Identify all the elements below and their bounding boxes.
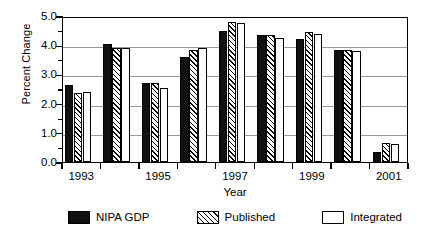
y-tick-label: 0.0	[23, 157, 57, 169]
bar	[74, 93, 82, 162]
bar-group	[296, 18, 322, 162]
bar	[237, 23, 245, 162]
bar-group	[334, 18, 360, 162]
bar	[296, 39, 304, 162]
legend-entry: NIPA GDP	[68, 211, 149, 224]
bar	[275, 38, 283, 162]
y-tick-label: 1.0	[23, 128, 57, 140]
bar	[198, 48, 206, 162]
bar	[121, 48, 129, 162]
x-tick	[292, 163, 293, 169]
bar	[382, 143, 390, 162]
x-tick	[100, 163, 101, 169]
bar-group	[373, 18, 399, 162]
bar	[219, 31, 227, 162]
legend-label: NIPA GDP	[96, 211, 149, 223]
bar-group	[103, 18, 129, 162]
chart-legend: NIPA GDPPublishedIntegrated	[62, 206, 408, 228]
bar	[305, 32, 313, 162]
bar	[391, 144, 399, 162]
bar	[160, 88, 168, 162]
legend-entry: Published	[197, 211, 276, 224]
x-tick	[61, 163, 62, 169]
y-tick-label: 4.0	[23, 40, 57, 52]
bar	[228, 22, 236, 162]
bar	[103, 44, 111, 162]
bar	[83, 92, 91, 162]
y-tick-label: 5.0	[23, 11, 57, 23]
solid-black-swatch	[68, 211, 90, 224]
diagonal-hatch-swatch	[197, 211, 219, 224]
legend-entry: Integrated	[322, 211, 402, 224]
x-tick-label: 2001	[361, 170, 417, 182]
bar	[142, 83, 150, 162]
x-tick	[254, 163, 255, 169]
bar	[65, 85, 73, 162]
bar-group	[219, 18, 245, 162]
bar	[266, 35, 274, 162]
bar	[189, 50, 197, 162]
y-tick-label: 3.0	[23, 69, 57, 81]
x-axis-title: Year	[62, 186, 408, 198]
plot-area	[62, 17, 408, 163]
bar	[257, 35, 265, 162]
legend-label: Published	[225, 211, 276, 223]
bar-group	[180, 18, 206, 162]
x-tick	[138, 163, 139, 169]
bar-group	[142, 18, 168, 162]
x-tick-label: 1995	[130, 170, 186, 182]
x-tick	[177, 163, 178, 169]
bar	[373, 152, 381, 162]
x-tick	[215, 163, 216, 169]
bar	[151, 83, 159, 162]
legend-label: Integrated	[350, 211, 402, 223]
y-tick-label: 2.0	[23, 99, 57, 111]
bar-group	[65, 18, 91, 162]
x-tick-label: 1997	[207, 170, 263, 182]
x-tick	[407, 163, 408, 169]
bar-chart-figure: Percent Change 0.01.02.03.04.05.0 199319…	[0, 0, 423, 236]
bar-group	[257, 18, 283, 162]
bar	[352, 51, 360, 162]
open-white-swatch	[322, 211, 344, 224]
bar	[112, 48, 120, 162]
x-tick-label: 1993	[53, 170, 109, 182]
bar	[343, 50, 351, 162]
x-tick	[330, 163, 331, 169]
x-tick	[369, 163, 370, 169]
bar	[180, 57, 188, 162]
bar	[314, 34, 322, 162]
bar	[334, 50, 342, 162]
x-tick-label: 1999	[284, 170, 340, 182]
